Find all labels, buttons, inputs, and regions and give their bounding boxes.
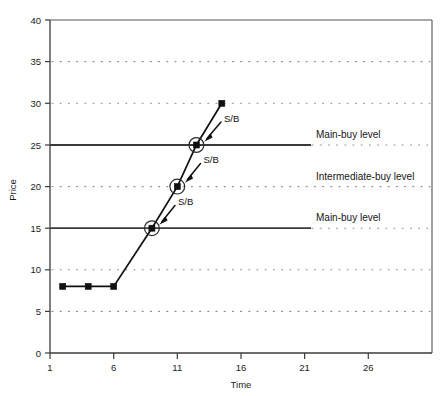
signal-label-15: S/B [178, 196, 193, 207]
data-marker-t4 [85, 283, 91, 289]
signal-annotation-25: S/B [204, 113, 239, 142]
y-axis-title: Price [7, 179, 18, 201]
y-tick-label-30: 30 [30, 98, 41, 109]
signal-label-25: S/B [224, 113, 239, 124]
y-tick-label-20: 20 [30, 181, 41, 192]
data-marker-t12 [193, 142, 199, 148]
level-label-main-buy-upper: Main-buy level [316, 129, 380, 140]
y-tick-label-0: 0 [36, 348, 41, 359]
price-series [60, 100, 225, 289]
x-tick-label-6: 6 [111, 362, 116, 373]
level-label-main-buy-lower: Main-buy level [316, 212, 380, 223]
price-series-line [63, 103, 222, 286]
y-tick-label-35: 35 [30, 56, 41, 67]
signal-arrow-head-20 [185, 174, 193, 183]
x-axis-ticks: 1 6 11 16 21 26 [47, 353, 373, 373]
x-tick-label-26: 26 [363, 362, 374, 373]
x-tick-label-21: 21 [299, 362, 310, 373]
chart-figure: 40 35 30 25 20 15 10 5 0 1 6 11 16 21 26… [0, 0, 446, 396]
x-tick-label-11: 11 [172, 362, 182, 373]
y-tick-label-15: 15 [30, 223, 41, 234]
x-tick-label-16: 16 [236, 362, 247, 373]
data-marker-t2 [60, 283, 66, 289]
signal-arrow-head-15 [159, 216, 167, 225]
data-marker-t11 [174, 184, 180, 190]
y-tick-label-10: 10 [30, 264, 41, 275]
x-tick-label-1: 1 [47, 362, 52, 373]
signal-annotation-15: S/B [159, 196, 193, 225]
signal-arrow-head-25 [204, 133, 212, 142]
data-marker-t9 [149, 225, 155, 231]
data-marker-t6 [111, 283, 117, 289]
signal-label-20: S/B [204, 154, 219, 165]
x-axis-title: Time [231, 379, 252, 390]
y-tick-label-5: 5 [36, 306, 41, 317]
horizontal-gridlines [52, 62, 430, 312]
y-tick-label-40: 40 [30, 15, 41, 26]
y-axis-ticks: 40 35 30 25 20 15 10 5 0 [30, 15, 50, 359]
y-tick-label-25: 25 [30, 140, 41, 151]
price-time-chart: 40 35 30 25 20 15 10 5 0 1 6 11 16 21 26… [0, 0, 446, 396]
data-marker-t14 [219, 100, 225, 106]
level-label-intermediate-buy: Intermediate-buy level [316, 171, 414, 182]
